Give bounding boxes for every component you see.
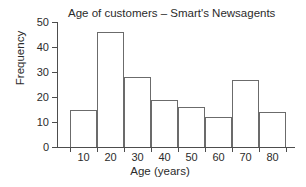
y-tick-mark	[52, 122, 57, 123]
y-axis-line	[57, 22, 58, 147]
bar-20	[97, 32, 124, 147]
bar-10	[70, 110, 97, 147]
x-tick-label-60: 60	[205, 152, 233, 163]
bar-80	[259, 112, 286, 147]
y-tick-mark	[52, 47, 57, 48]
x-axis-label: Age (years)	[60, 165, 260, 177]
histogram-figure: Age of customers – Smart's Newsagents Fr…	[0, 0, 306, 187]
y-tick-label-50: 50	[22, 17, 49, 28]
y-tick-label-20: 20	[22, 92, 49, 103]
x-tick-label-20: 20	[97, 152, 125, 163]
x-tick-label-70: 70	[232, 152, 260, 163]
x-tick-label-40: 40	[151, 152, 179, 163]
bar-60	[205, 117, 232, 147]
y-tick-mark	[52, 72, 57, 73]
y-tick-mark	[52, 97, 57, 98]
plot-area: 0 10 20 30 40 50 10 20 30 40 50 60 70 80	[0, 0, 306, 187]
x-tick-label-80: 80	[259, 152, 287, 163]
y-tick-label-40: 40	[22, 42, 49, 53]
bar-40	[151, 100, 178, 148]
y-tick-label-30: 30	[22, 67, 49, 78]
bar-50	[178, 107, 205, 147]
y-tick-mark	[52, 147, 57, 148]
y-tick-label-0: 0	[22, 142, 49, 153]
x-tick-label-30: 30	[124, 152, 152, 163]
y-tick-mark	[52, 22, 57, 23]
bar-70	[232, 80, 259, 148]
bar-30	[124, 77, 151, 147]
x-tick-label-10: 10	[70, 152, 98, 163]
x-tick-label-50: 50	[178, 152, 206, 163]
y-tick-label-10: 10	[22, 117, 49, 128]
